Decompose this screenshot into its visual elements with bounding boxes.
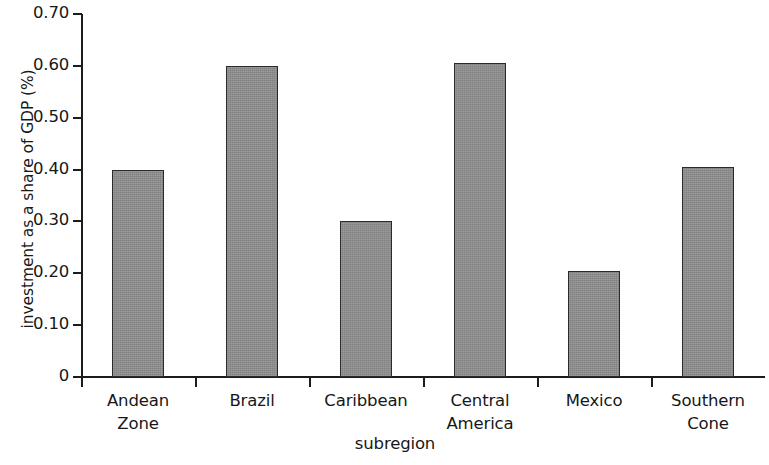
- x-axis-tick-label-line: Mexico: [537, 389, 651, 412]
- bar: [226, 66, 278, 377]
- y-axis-tick-label: 0: [5, 366, 69, 385]
- x-axis-title: subregion: [300, 434, 490, 453]
- x-axis-tick-label: Caribbean: [309, 389, 423, 412]
- y-axis-tick-label: 0.40: [5, 159, 69, 178]
- x-axis-tick: [309, 378, 311, 387]
- bar-chart: investment as a share of GDP (%) 00.100.…: [0, 0, 769, 465]
- x-axis-tick-label: SouthernCone: [651, 389, 765, 435]
- x-axis-tick-label: Mexico: [537, 389, 651, 412]
- bar: [112, 170, 164, 377]
- bar: [682, 167, 734, 377]
- x-axis-tick: [423, 378, 425, 387]
- x-axis-tick-label: AndeanZone: [81, 389, 195, 435]
- y-axis-tick-label: 0.20: [5, 262, 69, 281]
- plot-area: [81, 14, 765, 377]
- bar: [454, 63, 506, 377]
- x-axis-tick-label-line: Andean: [81, 389, 195, 412]
- x-axis-tick: [195, 378, 197, 387]
- y-axis-tick-label: 0.10: [5, 314, 69, 333]
- y-axis-tick-label: 0.50: [5, 107, 69, 126]
- x-axis-tick-label-line: Zone: [81, 412, 195, 435]
- y-axis-tick-label: 0.30: [5, 210, 69, 229]
- x-axis-tick-label-line: Southern: [651, 389, 765, 412]
- x-axis-tick: [537, 378, 539, 387]
- x-axis-tick-label-line: Caribbean: [309, 389, 423, 412]
- bar: [568, 271, 620, 377]
- y-axis-tick-label: 0.60: [5, 55, 69, 74]
- bar: [340, 221, 392, 377]
- x-axis-tick-label-line: America: [423, 412, 537, 435]
- x-axis-tick-label-line: Cone: [651, 412, 765, 435]
- y-axis-tick-label: 0.70: [5, 3, 69, 22]
- x-axis-tick-label: Brazil: [195, 389, 309, 412]
- x-axis-tick-label: CentralAmerica: [423, 389, 537, 435]
- x-axis-tick: [651, 378, 653, 387]
- x-axis-tick-label-line: Central: [423, 389, 537, 412]
- x-axis-tick-label-line: Brazil: [195, 389, 309, 412]
- x-axis-tick: [81, 378, 83, 387]
